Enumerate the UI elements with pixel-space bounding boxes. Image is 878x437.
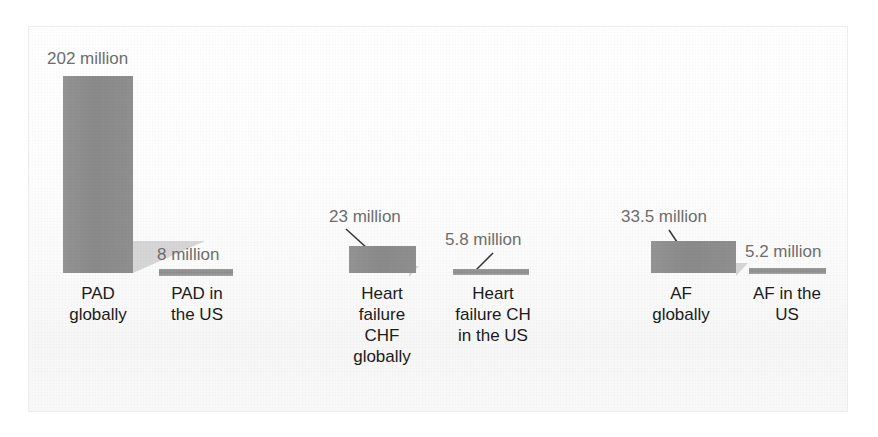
value-label-af-us: 5.2 million	[745, 242, 822, 261]
category-label-af-global: AF globally	[625, 283, 737, 325]
screenshot-root: 202 million 8 million PAD globally PAD i…	[0, 0, 878, 437]
bar-af-us	[749, 268, 826, 274]
category-label-af-us: AF in the US	[731, 283, 843, 325]
leader-line-af-global	[29, 27, 848, 412]
chart-plot-area: 202 million 8 million PAD globally PAD i…	[29, 27, 847, 411]
chart-panel: 202 million 8 million PAD globally PAD i…	[28, 26, 848, 412]
bar-af-global	[651, 241, 736, 273]
bar-shadow-af-global	[736, 263, 748, 276]
